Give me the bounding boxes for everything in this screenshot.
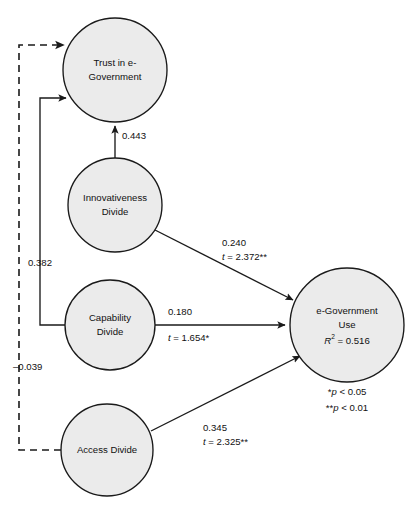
legend-p-value-1: < 0.05 [337,386,367,397]
edge-label-innovativeness-to-egov-use-coefficient: 0.240 [222,237,246,248]
t-value-innovativeness: = 2.372** [225,251,268,262]
edge-access-to-trust [19,45,64,450]
sem-path-diagram: Trust in e- Government Innovativeness Di… [0,0,405,512]
node-innovativeness-label-line1: Innovativeness [83,192,147,203]
edge-label-access-to-egov-use-coefficient: 0.345 [203,422,227,433]
node-egov-use-r-squared: R2 = 0.516 [324,333,370,345]
edge-label-access-to-egov-use-t-statistic: t = 2.325** [203,436,248,447]
t-value-capability: = 1.654* [171,332,210,343]
diagram-canvas: Trust in e- Government Innovativeness Di… [0,0,405,512]
node-innovativeness-label-line2: Divide [102,206,129,217]
edge-label-capability-to-trust-coefficient: 0.382 [28,257,52,268]
node-capability-label-line2: Divide [97,326,124,337]
edge-capability-to-trust [40,98,66,325]
legend-significance-line2: **p < 0.01 [326,402,368,413]
edge-label-innovativeness-to-trust-coefficient: 0.443 [122,130,146,141]
t-value-access: = 2.325** [206,436,249,447]
node-access-label-line1: Access Divide [77,444,137,455]
legend-p-value-2: < 0.01 [339,402,369,413]
node-trust-label-line2: Government [89,71,142,82]
edge-access-to-egov-use [151,356,300,431]
node-egov-use-label-line1: e-Government [316,305,378,316]
edge-label-capability-to-egov-use-t-statistic: t = 1.654* [168,332,210,343]
node-trust-label-line1: Trust in e- [94,57,137,68]
legend-significance-line1: *p < 0.05 [328,386,367,397]
edge-label-capability-to-egov-use-coefficient: 0.180 [168,306,192,317]
r-squared-value: = 0.516 [335,335,370,346]
node-capability-label-line1: Capability [89,312,131,323]
edge-label-access-to-trust-coefficient: –0.039 [13,361,42,372]
node-egov-use-label-line2: Use [338,319,355,330]
edge-label-innovativeness-to-egov-use-t-statistic: t = 2.372** [222,251,267,262]
r-squared-symbol: R [324,335,331,346]
